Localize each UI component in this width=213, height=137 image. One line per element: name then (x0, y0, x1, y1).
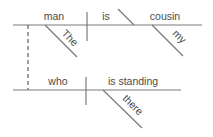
relative-subject: who (47, 75, 67, 87)
subject-modifier: The (60, 27, 81, 48)
main-complement-slant (118, 9, 134, 25)
complement-modifier: my (171, 27, 190, 46)
sentence-diagram: man is cousin The my who is standing the… (0, 0, 213, 137)
main-complement: cousin (150, 10, 181, 22)
adverb: there (121, 92, 147, 118)
main-subject: man (44, 10, 65, 22)
relative-verb: is standing (108, 75, 158, 87)
main-verb: is (102, 10, 110, 22)
